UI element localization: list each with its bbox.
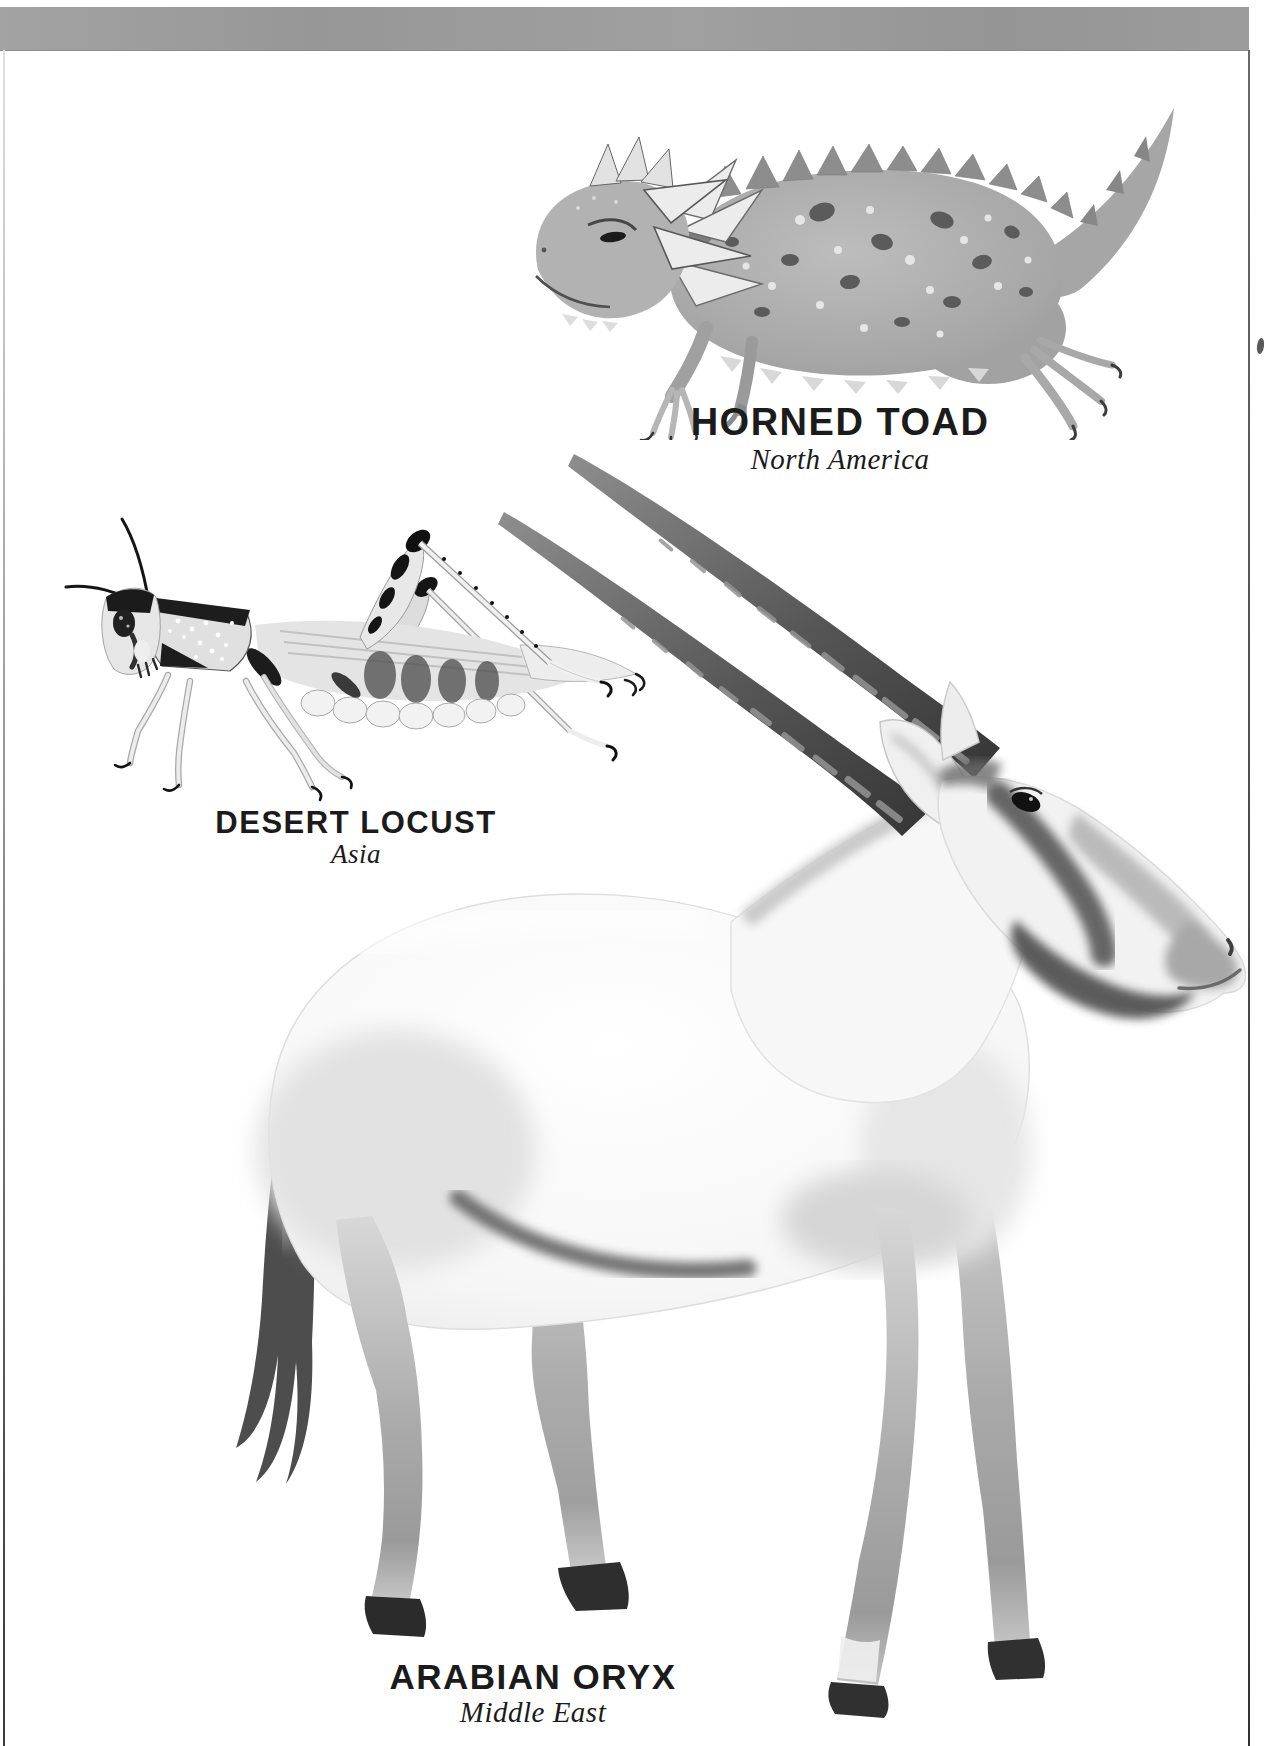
left-edge-rule bbox=[3, 50, 5, 1746]
figure-arabian-oryx bbox=[186, 450, 1266, 1720]
arabian-oryx-name: ARABIAN ORYX bbox=[390, 1658, 677, 1697]
top-gray-band bbox=[0, 7, 1249, 51]
horned-toad-illustration bbox=[520, 90, 1210, 440]
arabian-oryx-caption: ARABIAN ORYX Middle East bbox=[390, 1658, 677, 1728]
arabian-oryx-region: Middle East bbox=[390, 1697, 677, 1729]
ink-mark bbox=[1256, 338, 1265, 355]
horned-toad-name: HORNED TOAD bbox=[691, 402, 990, 444]
oryx-illustration bbox=[186, 450, 1266, 1720]
page-root: { "page": { "background": "#ffffff", "to… bbox=[0, 0, 1266, 1746]
figure-horned-toad bbox=[520, 90, 1210, 440]
